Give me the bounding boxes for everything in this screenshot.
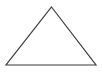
triangle-figure [0, 0, 102, 77]
drawing-canvas [0, 0, 102, 77]
